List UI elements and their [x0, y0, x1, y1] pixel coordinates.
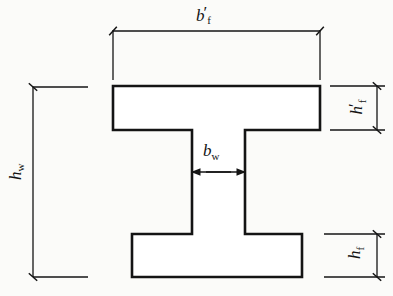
- beam-profile-path: [113, 86, 320, 277]
- label-subscript: f: [207, 14, 211, 26]
- label-variable: h: [347, 106, 366, 115]
- label-prime: ′: [345, 103, 364, 107]
- label-top-flange-thickness: h′f: [346, 99, 368, 114]
- label-bottom-flange-thickness: hf: [346, 247, 366, 259]
- beam-outline: [113, 86, 320, 277]
- label-subscript: w: [212, 150, 220, 162]
- label-variable: h: [6, 172, 25, 181]
- label-top-flange-width: b′f: [196, 4, 211, 26]
- dimension-top-flange-width: [113, 30, 320, 80]
- label-variable: b: [203, 141, 212, 160]
- label-web-height: hw: [7, 163, 27, 180]
- label-subscript: f: [354, 247, 366, 251]
- label-web-thickness: bw: [203, 142, 220, 162]
- label-subscript: f: [356, 99, 368, 103]
- beam-cross-section-figure: b′f h′f hw bw hf: [0, 0, 393, 296]
- label-variable: h: [345, 250, 364, 259]
- label-subscript: w: [14, 163, 26, 171]
- dimension-web-height: [33, 87, 88, 277]
- figure-vector-layer: [0, 0, 393, 296]
